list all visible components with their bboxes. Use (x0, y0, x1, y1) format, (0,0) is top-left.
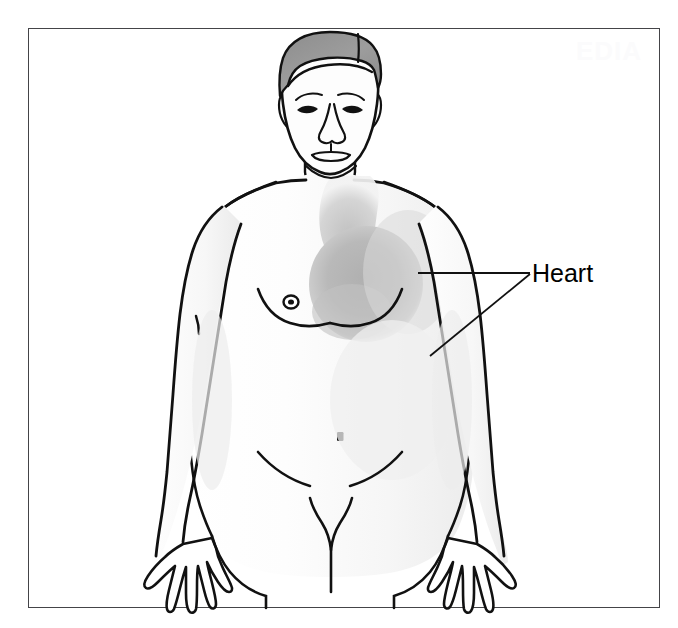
hair-part-line (358, 34, 359, 62)
human-body-diagram (0, 0, 678, 628)
mouth-shape (312, 152, 350, 161)
figure-root: EDIA (0, 0, 678, 628)
arm-left-shading (192, 310, 232, 490)
heart-label: Heart (532, 259, 593, 288)
head-group (279, 32, 381, 178)
nipple-left-icon (284, 296, 299, 309)
